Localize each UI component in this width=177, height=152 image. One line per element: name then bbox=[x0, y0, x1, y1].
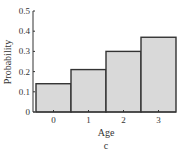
y-tick-label: 0.4 bbox=[19, 26, 31, 36]
bar-1 bbox=[71, 70, 106, 112]
x-tick-label: 1 bbox=[86, 115, 91, 125]
y-tick-label: 0.2 bbox=[19, 67, 30, 77]
y-tick-label: 0 bbox=[26, 107, 31, 117]
bar-3 bbox=[141, 37, 176, 112]
bar-chart: 00.10.20.30.40.5 0123 Probability Age c bbox=[0, 0, 177, 152]
x-axis: 0123 bbox=[33, 110, 176, 125]
x-tick-label: 2 bbox=[121, 115, 126, 125]
bar-2 bbox=[106, 51, 141, 112]
bars bbox=[36, 37, 176, 112]
y-tick-label: 0.3 bbox=[19, 46, 31, 56]
y-tick-label: 0.5 bbox=[19, 6, 31, 16]
x-tick-label: 3 bbox=[156, 115, 161, 125]
x-axis-title: Age bbox=[98, 127, 115, 138]
bar-0 bbox=[36, 84, 71, 112]
panel-label: c bbox=[104, 140, 109, 151]
y-axis-title: Probability bbox=[2, 40, 13, 84]
y-tick-label: 0.1 bbox=[19, 87, 30, 97]
x-tick-label: 0 bbox=[51, 115, 56, 125]
y-axis: 00.10.20.30.40.5 bbox=[19, 6, 35, 117]
